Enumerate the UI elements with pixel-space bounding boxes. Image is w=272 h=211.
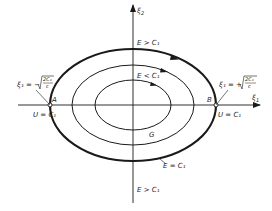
region-g-label: G — [149, 131, 155, 139]
vertical-axis-label: ξ2 — [136, 7, 144, 16]
direction-arrows — [150, 55, 179, 86]
arrow-head-icon — [160, 68, 168, 73]
right-sqrt-numerator: 2C₁ — [245, 76, 254, 82]
arrow-head-icon — [150, 82, 157, 86]
axes — [18, 5, 260, 203]
right-potential-label: U = C₁ — [218, 111, 241, 119]
phase-portrait-diagram: ξ2 ξ1 A B ξ₁ = − 2C₁ c ξ₁ = + 2C₁ c U = … — [0, 0, 272, 211]
left-xi-annotation: ξ₁ = − 2C₁ c — [16, 76, 54, 89]
separatrix-energy-label: E = C₁ — [163, 162, 186, 170]
right-leader-line — [216, 90, 228, 105]
right-sqrt-denominator: c — [248, 83, 251, 89]
left-potential-label: U = C₁ — [33, 111, 56, 119]
horizontal-axis-label: ξ1 — [251, 94, 259, 103]
bottom-energy-label: E > C₁ — [137, 186, 160, 194]
left-leader-line — [36, 90, 50, 105]
left-sqrt-denominator: c — [46, 83, 49, 89]
right-xi-expression: ξ₁ = + — [218, 81, 242, 89]
left-xi-expression: ξ₁ = − — [16, 81, 40, 89]
point-a-label: A — [51, 96, 57, 104]
leader-lines — [36, 90, 228, 164]
inner-energy-label: E < C₁ — [137, 72, 160, 80]
right-xi-annotation: ξ₁ = + 2C₁ c — [218, 76, 257, 89]
point-b-label: B — [207, 96, 212, 104]
left-sqrt-numerator: 2C₁ — [43, 76, 52, 82]
top-energy-label: E > C₁ — [137, 39, 160, 47]
